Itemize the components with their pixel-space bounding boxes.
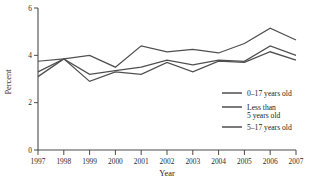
y-tick-label: 6 [28,4,32,13]
legend-label-less-than-5-line1: Less than [247,103,276,112]
x-tick-label: 2000 [108,157,123,166]
y-tick-label: 0 [28,146,32,155]
chart-legend: 0–17 years oldLess than5 years old5–17 y… [222,89,292,132]
x-tick-label: 2005 [237,157,252,166]
legend-label-5-17: 5–17 years old [247,123,292,132]
x-tick-label: 2006 [263,157,278,166]
series-line-1 [38,28,296,67]
x-tick-label: 2004 [211,157,226,166]
chart-plot-area: 0246 19971998199920002001200220032004200… [0,0,311,180]
x-tick-marks [38,150,296,155]
y-axis-title: Percent [4,69,13,95]
x-tick-labels: 1997199819992000200120022003200420052006… [31,157,304,166]
y-axis-group: 0246 [28,4,38,155]
x-tick-label: 2003 [185,157,200,166]
legend-label-0-17: 0–17 years old [247,89,292,98]
x-tick-label: 2001 [134,157,149,166]
line-chart-figure: 0246 19971998199920002001200220032004200… [0,0,311,180]
x-tick-label: 1999 [82,157,97,166]
x-tick-label: 1997 [31,157,46,166]
x-tick-label: 1998 [56,157,71,166]
legend-label-less-than-5-line2: 5 years old [247,111,281,120]
y-tick-labels: 0246 [28,4,32,155]
y-tick-label: 4 [28,51,32,60]
x-axis-title: Year [159,169,175,178]
y-tick-marks [34,8,38,150]
y-tick-label: 2 [28,98,32,107]
data-series-group [38,28,296,81]
x-tick-label: 2007 [289,157,304,166]
x-tick-label: 2002 [160,157,175,166]
x-axis-group: 1997199819992000200120022003200420052006… [31,150,304,166]
